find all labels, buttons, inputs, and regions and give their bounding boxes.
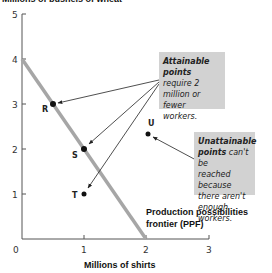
unattainable-note-bold2: points bbox=[198, 148, 226, 157]
unattainable-note-bold1: Unattainable bbox=[198, 137, 256, 146]
point-s bbox=[81, 146, 87, 152]
x-tick-2: 2 bbox=[143, 245, 149, 255]
y-tick-1: 1 bbox=[12, 190, 18, 200]
unattainable-note-text4: enough workers. bbox=[198, 203, 232, 223]
x-axis-title: Millions of shirts bbox=[84, 260, 156, 270]
attainable-note-text3: workers. bbox=[163, 112, 197, 121]
x-tick-1: 1 bbox=[81, 245, 87, 255]
point-u bbox=[146, 132, 151, 137]
unattainable-arrow bbox=[153, 137, 196, 160]
x-tick-3: 3 bbox=[206, 245, 212, 255]
y-ticks bbox=[22, 14, 26, 194]
point-u-label: U bbox=[148, 119, 155, 128]
point-r bbox=[50, 101, 56, 107]
point-r-label: R bbox=[42, 105, 48, 114]
point-s-label: S bbox=[72, 151, 78, 160]
attainable-note-bold2: points bbox=[163, 68, 191, 77]
unattainable-note-text2: reached because bbox=[198, 170, 231, 190]
attainable-note-bold1: Attainable bbox=[163, 57, 210, 66]
y-tick-5: 5 bbox=[12, 10, 18, 20]
ppf-label-line1: Production possibilities bbox=[146, 207, 248, 217]
y-tick-4: 4 bbox=[12, 55, 18, 65]
attainable-note-text2: million or fewer bbox=[163, 90, 200, 110]
x-tick-0: 0 bbox=[13, 245, 19, 255]
point-t-label: T bbox=[72, 191, 78, 200]
y-tick-3: 3 bbox=[12, 100, 18, 110]
attainable-note-text1: require 2 bbox=[163, 79, 199, 88]
unattainable-note-text3: there aren't bbox=[198, 192, 245, 201]
point-t bbox=[82, 192, 87, 197]
unattainable-note: Unattainable points can't be reached bec… bbox=[194, 132, 255, 195]
attainable-note: Attainable points require 2 million or f… bbox=[159, 52, 225, 109]
y-tick-2: 2 bbox=[12, 145, 18, 155]
ppf-label-line2: frontier (PPF) bbox=[146, 219, 204, 229]
